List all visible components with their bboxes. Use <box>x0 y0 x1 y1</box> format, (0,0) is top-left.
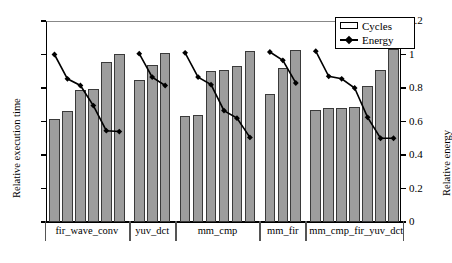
bar-cycles <box>114 54 125 222</box>
bar-cycles <box>245 51 256 222</box>
bar-cycles <box>49 119 60 222</box>
group-separator <box>45 221 46 241</box>
y-axis-right-tick <box>401 154 406 156</box>
bar-cycles <box>232 66 243 222</box>
bar-cycles <box>375 70 386 222</box>
y-axis-right-tick <box>401 121 406 123</box>
group-separator <box>260 221 261 241</box>
y-axis-right-tick <box>401 188 406 190</box>
legend: Cycles Energy <box>335 17 415 49</box>
bar-cycles <box>206 71 217 222</box>
bar-cycles <box>75 90 86 222</box>
y-axis-right-tick-label: 0.8 <box>409 81 449 93</box>
x-axis-category-label: fir_wave_conv <box>48 225 126 236</box>
y-axis-right-tick <box>401 54 406 56</box>
y-axis-right-tick-label: 1 <box>409 48 449 60</box>
bar-cycles <box>323 108 334 222</box>
bar-cycles <box>362 86 373 222</box>
bar-cycles <box>147 65 158 222</box>
bar-cycles <box>134 80 145 222</box>
bar-cycles <box>180 116 191 222</box>
legend-item-energy: Energy <box>339 33 413 47</box>
y-axis-right-tick-label: 0.4 <box>409 148 449 160</box>
y-axis-right-tick-label: 1.2 <box>409 14 449 26</box>
legend-label-energy: Energy <box>362 33 394 47</box>
bar-cycles <box>388 49 399 222</box>
bar-cycles <box>219 70 230 222</box>
group-separator <box>306 221 307 241</box>
bar-cycles <box>101 62 112 222</box>
y-axis-left-title: Relative execution time <box>11 98 22 198</box>
bar-swatch-icon <box>340 22 358 29</box>
y-axis-right-tick-label: 0 <box>409 215 449 227</box>
x-axis-category-label: mm_cmp <box>179 225 257 236</box>
bar-cycles <box>336 108 347 222</box>
y-axis-right-tick-label: 0.2 <box>409 182 449 194</box>
diamond-marker-icon <box>345 35 353 43</box>
legend-label-cycles: Cycles <box>362 19 392 33</box>
bar-cycles <box>290 50 301 222</box>
x-axis-category-label: mm_cmp_fir_yuv_dct <box>309 225 400 236</box>
bar-cycles <box>265 94 276 222</box>
y-axis-right-tick <box>401 87 406 89</box>
group-separator <box>176 221 177 241</box>
bar-cycles <box>62 111 73 222</box>
group-separator <box>130 221 131 241</box>
legend-item-cycles: Cycles <box>339 19 413 33</box>
group-separator <box>403 221 404 241</box>
bar-cycles <box>193 115 204 222</box>
y-axis-right-tick-label: 0.6 <box>409 115 449 127</box>
x-axis-category-label: mm_fir <box>263 225 302 236</box>
bar-cycles <box>278 68 289 222</box>
bar-cycles <box>160 53 171 222</box>
bar-cycles <box>310 110 321 222</box>
bar-cycles <box>88 89 99 222</box>
bar-cycles <box>349 107 360 222</box>
x-axis-category-label: yuv_dct <box>133 225 172 236</box>
